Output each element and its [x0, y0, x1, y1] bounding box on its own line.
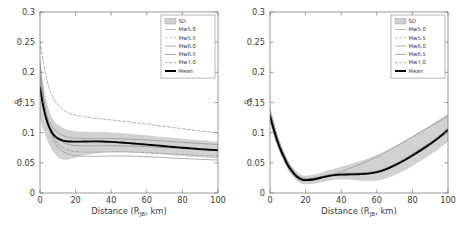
x-tick-label: 80	[177, 195, 187, 205]
legend-label-mw65: Mw6.5	[179, 51, 196, 57]
y-tick-label: 0.3	[252, 7, 265, 17]
y-tick-label: 0	[260, 188, 265, 198]
legend-label-mw55: Mw5.5	[179, 35, 196, 41]
legend-label-mean: Mean	[179, 68, 193, 74]
y-axis-title-superscript: 2	[19, 97, 22, 103]
y-tick-label: 0.25	[247, 37, 265, 47]
y-tick-label: 0.05	[17, 158, 35, 168]
data-layer	[270, 108, 448, 184]
x-tick-label: 100	[210, 195, 226, 205]
chart-panel-right: 02040608010000.050.10.150.20.250.3Distan…	[230, 0, 460, 230]
x-tick-label: 40	[106, 195, 116, 205]
legend-label-mw70: Mw7.0	[409, 59, 427, 65]
legend-swatch-sd	[395, 19, 406, 24]
x-tick-label: 20	[70, 195, 80, 205]
x-axis-title-tail: , km)	[145, 206, 167, 216]
plot-area-left: 02040608010000.050.10.150.20.250.3Distan…	[0, 0, 230, 230]
y-tick-label: 0.25	[17, 37, 35, 47]
x-axis-title: Distance (RJB, km)	[91, 206, 166, 218]
y-tick-label: 0.1	[22, 128, 35, 138]
x-axis-title: Distance (RJB, km)	[321, 206, 396, 218]
y-axis-title-superscript: 2	[249, 97, 252, 103]
x-axis-title-main: Distance (R	[321, 206, 370, 216]
y-tick-label: 0.2	[252, 67, 265, 77]
x-tick-label: 0	[37, 195, 42, 205]
legend-label-mw55: Mw5.5	[409, 35, 426, 41]
y-tick-label: 0.3	[22, 7, 35, 17]
x-tick-label: 60	[142, 195, 152, 205]
dual-panel-figure: 02040608010000.050.10.150.20.250.3Distan…	[0, 0, 460, 230]
y-tick-label: 0.2	[22, 67, 35, 77]
x-axis-title-main: Distance (R	[91, 206, 140, 216]
legend-label-mw50: Mw5.0	[409, 26, 427, 32]
legend-label-mw60: Mw6.0	[409, 43, 427, 49]
legend-label-mw60: Mw6.0	[179, 43, 197, 49]
plot-area-right: 02040608010000.050.10.150.20.250.3Distan…	[230, 0, 460, 230]
legend-label-mean: Mean	[409, 68, 423, 74]
x-tick-label: 20	[300, 195, 310, 205]
y-tick-label: 0	[30, 188, 35, 198]
chart-panel-left: 02040608010000.050.10.150.20.250.3Distan…	[0, 0, 230, 230]
legend-label-mw50: Mw5.0	[179, 26, 197, 32]
x-tick-label: 0	[267, 195, 272, 205]
y-tick-label: 0.1	[252, 128, 265, 138]
legend-label-mw65: Mw6.5	[409, 51, 426, 57]
x-tick-label: 100	[440, 195, 456, 205]
legend: SDMw5.0Mw5.5Mw6.0Mw6.5Mw7.0Mean	[161, 15, 215, 78]
y-tick-label: 0.05	[247, 158, 265, 168]
legend-label-mw70: Mw7.0	[179, 59, 197, 65]
legend-label-sd: SD	[409, 18, 416, 24]
x-tick-label: 80	[407, 195, 417, 205]
legend-label-sd: SD	[179, 18, 186, 24]
x-axis-title-tail: , km)	[375, 206, 397, 216]
legend: SDMw5.0Mw5.5Mw6.0Mw6.5Mw7.0Mean	[391, 15, 445, 78]
x-tick-label: 40	[336, 195, 346, 205]
x-tick-label: 60	[372, 195, 382, 205]
legend-swatch-sd	[165, 19, 176, 24]
